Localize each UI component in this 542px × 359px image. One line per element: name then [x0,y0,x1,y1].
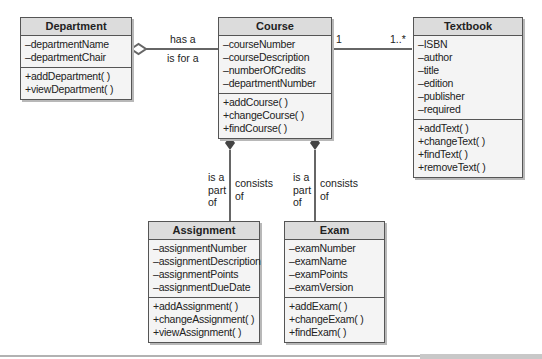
operation: +addText( ) [418,122,518,135]
class-name: Assignment [149,222,259,240]
attribute: –edition [418,77,518,90]
operation: +addDepartment( ) [25,70,127,83]
operations: +addText( ) +changeText( ) +findText( ) … [414,119,522,177]
class-textbook[interactable]: Textbook –ISBN –author –title –edition –… [413,17,523,178]
attribute: –assignmentDueDate [153,281,255,294]
multiplicity-course: 1 [336,33,342,46]
operation: +removeText( ) [418,161,518,174]
operation: +changeText( ) [418,135,518,148]
operations: +addExam( ) +changeExam( ) +findExam( ) [285,297,384,342]
operation: +changeExam( ) [289,313,380,326]
attribute: –courseNumber [223,38,327,51]
attribute: –courseDescription [223,51,327,64]
class-course[interactable]: Course –courseNumber –courseDescription … [218,17,332,139]
attribute: –ISBN [418,38,518,51]
operation: +viewAssignment( ) [153,326,255,339]
attribute: –examName [289,255,380,268]
attributes: –departmentName –departmentChair [21,36,131,67]
attribute: –departmentName [25,38,127,51]
role-label-is-a-part-of: is a part of [293,171,311,209]
operation: +findText( ) [418,148,518,161]
operation: +changeAssignment( ) [153,313,255,326]
attributes: –examNumber –examName –examPoints –examV… [285,240,384,297]
operation: +addCourse( ) [223,96,327,109]
class-assignment[interactable]: Assignment –assignmentNumber –assignment… [148,221,260,343]
class-name: Textbook [414,18,522,36]
attribute: –assignmentNumber [153,242,255,255]
role-label-has-a: has a [170,33,196,46]
attribute: –examVersion [289,281,380,294]
aggregation-diamond-icon [131,44,146,54]
operations: +addCourse( ) +changeCourse( ) +findCour… [219,93,331,138]
operation: +changeCourse( ) [223,109,327,122]
attribute: –examPoints [289,268,380,281]
attribute: –required [418,103,518,116]
class-name: Exam [285,222,384,240]
role-label-consists-of: consists of [320,177,358,202]
attribute: –departmentNumber [223,77,327,90]
operation: +findExam( ) [289,326,380,339]
attributes: –courseNumber –courseDescription –number… [219,36,331,93]
attributes: –assignmentNumber –assignmentDescription… [149,240,259,297]
attribute: –publisher [418,90,518,103]
class-department[interactable]: Department –departmentName –departmentCh… [20,17,132,100]
class-name: Course [219,18,331,36]
multiplicity-textbook: 1..* [390,33,406,46]
operation: +viewDepartment( ) [25,83,127,96]
operations: +addAssignment( ) +changeAssignment( ) +… [149,297,259,342]
attribute: –departmentChair [25,51,127,64]
role-label-consists-of: consists of [235,177,273,202]
operation: +findCourse( ) [223,122,327,135]
attribute: –title [418,64,518,77]
class-name: Department [21,18,131,36]
operation: +addAssignment( ) [153,300,255,313]
attribute: –assignmentDescription [153,255,255,268]
role-label-is-a-part-of: is a part of [208,171,226,209]
class-exam[interactable]: Exam –examNumber –examName –examPoints –… [284,221,385,343]
attribute: –examNumber [289,242,380,255]
role-label-is-for-a: is for a [167,52,199,65]
attribute: –author [418,51,518,64]
attribute: –assignmentPoints [153,268,255,281]
operations: +addDepartment( ) +viewDepartment( ) [21,67,131,99]
attribute: –numberOfCredits [223,64,327,77]
operation: +addExam( ) [289,300,380,313]
attributes: –ISBN –author –title –edition –publisher… [414,36,522,119]
